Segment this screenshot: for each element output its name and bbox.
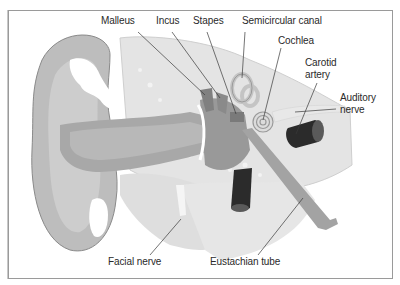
label-cochlea: Cochlea [278, 35, 314, 47]
label-incus: Incus [156, 15, 179, 27]
cochlea-shape [253, 112, 273, 132]
label-carotid-artery-line1: Carotid [305, 57, 337, 69]
label-auditory-nerve-line2: nerve [340, 104, 365, 116]
label-eustachian-tube: Eustachian tube [210, 256, 280, 268]
label-carotid-artery-line2: artery [305, 69, 330, 81]
label-semicircular-canal: Semicircular canal [242, 15, 322, 27]
stapes-shape [230, 112, 244, 122]
label-facial-nerve: Facial nerve [108, 256, 161, 268]
label-stapes: Stapes [193, 15, 224, 27]
ear-anatomy-illustration [0, 0, 400, 285]
label-malleus: Malleus [101, 15, 135, 27]
label-auditory-nerve-line1: Auditory [340, 92, 376, 104]
